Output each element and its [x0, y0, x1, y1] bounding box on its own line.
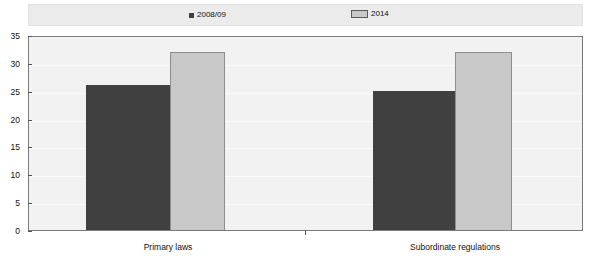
- x-axis-labels: Primary laws Subordinate regulations: [28, 240, 583, 256]
- x-tick-mark-center: [305, 231, 306, 235]
- bar-2014-subordinate-regulations[interactable]: [455, 52, 512, 230]
- y-tick-label-5: 5: [15, 199, 20, 208]
- y-tick-mark-20: [28, 120, 32, 121]
- y-tick-mark-15: [28, 147, 32, 148]
- bars-layer: [29, 37, 582, 230]
- y-tick-mark-0: [28, 231, 32, 232]
- x-tick-label-subordinate-regulations: Subordinate regulations: [410, 243, 500, 252]
- y-tick-label-10: 10: [11, 171, 20, 180]
- bar-2008-09-primary-laws[interactable]: [86, 85, 170, 230]
- legend-label-series-0: 2008/09: [197, 11, 226, 19]
- y-tick-label-35: 35: [11, 32, 20, 41]
- y-tick-mark-30: [28, 64, 32, 65]
- y-tick-mark-10: [28, 175, 32, 176]
- x-tick-label-primary-laws: Primary laws: [144, 243, 193, 252]
- legend-swatch-icon-series-1: [351, 10, 368, 18]
- legend-items: 2008/09 2014: [29, 5, 582, 25]
- chart-legend: 2008/09 2014: [28, 4, 583, 26]
- legend-label-series-1: 2014: [371, 10, 389, 18]
- y-tick-mark-35: [28, 36, 32, 37]
- y-tick-mark-25: [28, 92, 32, 93]
- y-tick-label-15: 15: [11, 143, 20, 152]
- legend-swatch-icon-series-0: [189, 13, 194, 18]
- bar-2008-09-subordinate-regulations[interactable]: [373, 91, 455, 230]
- legend-item-2008-09: 2008/09: [189, 11, 226, 19]
- y-tick-mark-5: [28, 203, 32, 204]
- y-tick-label-20: 20: [11, 115, 20, 124]
- bar-chart: 2008/09 2014 0 5: [0, 0, 600, 263]
- y-tick-label-0: 0: [15, 227, 20, 236]
- legend-item-2014: 2014: [351, 10, 389, 18]
- y-tick-label-25: 25: [11, 87, 20, 96]
- y-axis-labels: 0 5 10 15 20 25 30 35: [0, 36, 26, 231]
- y-tick-label-30: 30: [11, 60, 20, 69]
- bar-2014-primary-laws[interactable]: [170, 52, 225, 230]
